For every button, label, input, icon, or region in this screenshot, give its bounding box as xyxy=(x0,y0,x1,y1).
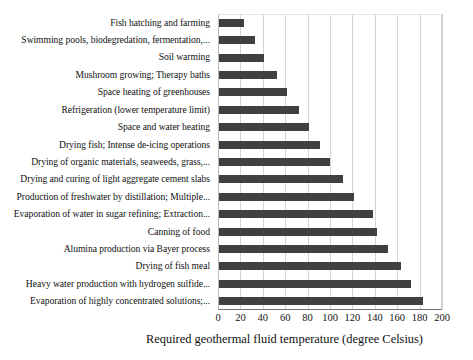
x-tick-label: 0 xyxy=(215,312,220,323)
category-label-row: Canning of food xyxy=(0,223,214,240)
bar xyxy=(218,158,330,166)
bar xyxy=(218,54,264,62)
category-label: Evaporation of water in sugar refining; … xyxy=(14,209,210,219)
bar xyxy=(218,297,423,305)
bar-row xyxy=(218,14,442,31)
category-label-row: Space and water heating xyxy=(0,118,214,135)
bar xyxy=(218,19,244,27)
category-axis-labels: Fish hatching and farmingSwimming pools,… xyxy=(0,14,214,310)
category-label-row: Drying of fish meal xyxy=(0,258,214,275)
horizontal-bar-chart: Fish hatching and farmingSwimming pools,… xyxy=(0,0,473,360)
category-label-row: Heavy water production with hydrogen sul… xyxy=(0,275,214,292)
bar xyxy=(218,210,373,218)
bar-row xyxy=(218,49,442,66)
gridline xyxy=(442,14,443,310)
category-label: Heavy water production with hydrogen sul… xyxy=(26,279,210,289)
category-label-row: Drying of organic materials, seaweeds, g… xyxy=(0,153,214,170)
category-label: Alumina production via Bayer process xyxy=(64,244,210,254)
bar-row xyxy=(218,205,442,222)
category-label: Canning of food xyxy=(148,227,210,237)
category-label-row: Soil warming xyxy=(0,49,214,66)
bar xyxy=(218,262,401,270)
category-label: Refrigeration (lower temperature limit) xyxy=(61,105,210,115)
bar-row xyxy=(218,240,442,257)
category-label-row: Drying and curing of light aggregate cem… xyxy=(0,171,214,188)
category-label: Drying of organic materials, seaweeds, g… xyxy=(31,157,210,167)
bar-row xyxy=(218,31,442,48)
category-label: Mushroom growing; Therapy baths xyxy=(76,70,210,80)
x-tick-label: 160 xyxy=(389,312,405,323)
bar-row xyxy=(218,293,442,310)
category-label: Evaporation of highly concentrated solut… xyxy=(30,296,210,306)
category-label: Fish hatching and farming xyxy=(110,18,210,28)
bar xyxy=(218,228,377,236)
bar xyxy=(218,141,320,149)
x-tick-label: 60 xyxy=(280,312,291,323)
bar-row xyxy=(218,258,442,275)
bar-row xyxy=(218,84,442,101)
category-label-row: Space heating of greenhouses xyxy=(0,84,214,101)
category-label-row: Refrigeration (lower temperature limit) xyxy=(0,101,214,118)
x-axis-title: Required geothermal fluid temperature (d… xyxy=(0,332,473,347)
bar xyxy=(218,106,299,114)
category-label: Drying fish; Intense de-icing operations xyxy=(59,140,210,150)
x-tick-label: 120 xyxy=(345,312,361,323)
bar-row xyxy=(218,188,442,205)
bar-row xyxy=(218,223,442,240)
bar xyxy=(218,71,277,79)
bar xyxy=(218,36,255,44)
category-label-row: Fish hatching and farming xyxy=(0,14,214,31)
x-tick-label: 80 xyxy=(302,312,313,323)
category-label: Drying of fish meal xyxy=(136,261,210,271)
category-label-row: Mushroom growing; Therapy baths xyxy=(0,66,214,83)
category-label-row: Alumina production via Bayer process xyxy=(0,240,214,257)
bar xyxy=(218,88,287,96)
plot-area xyxy=(218,14,442,310)
bar-row xyxy=(218,101,442,118)
x-tick-label: 180 xyxy=(412,312,428,323)
bar-row xyxy=(218,66,442,83)
category-label: Space heating of greenhouses xyxy=(98,87,210,97)
category-label: Swimming pools, biodegredation, fermenta… xyxy=(21,35,210,45)
bar-row xyxy=(218,153,442,170)
category-label: Soil warming xyxy=(159,52,210,62)
x-tick-label: 40 xyxy=(258,312,269,323)
category-label-row: Drying fish; Intense de-icing operations xyxy=(0,136,214,153)
bar xyxy=(218,193,354,201)
bar-row xyxy=(218,118,442,135)
category-label-row: Evaporation of highly concentrated solut… xyxy=(0,293,214,310)
bar-series xyxy=(218,14,442,310)
x-tick-label: 200 xyxy=(434,312,450,323)
category-label: Space and water heating xyxy=(118,122,210,132)
category-label-row: Swimming pools, biodegredation, fermenta… xyxy=(0,31,214,48)
x-axis-ticks: 020406080100120140160180200 xyxy=(218,312,442,328)
bar xyxy=(218,245,388,253)
bar xyxy=(218,175,343,183)
category-label-row: Evaporation of water in sugar refining; … xyxy=(0,205,214,222)
bar-row xyxy=(218,275,442,292)
category-label-row: Production of freshwater by distillation… xyxy=(0,188,214,205)
category-label: Drying and curing of light aggregate cem… xyxy=(20,174,210,184)
x-tick-label: 100 xyxy=(322,312,338,323)
x-tick-label: 140 xyxy=(367,312,383,323)
bar-row xyxy=(218,171,442,188)
category-label: Production of freshwater by distillation… xyxy=(17,192,210,202)
bar xyxy=(218,280,411,288)
bar-row xyxy=(218,136,442,153)
bar xyxy=(218,123,309,131)
x-tick-label: 20 xyxy=(235,312,246,323)
